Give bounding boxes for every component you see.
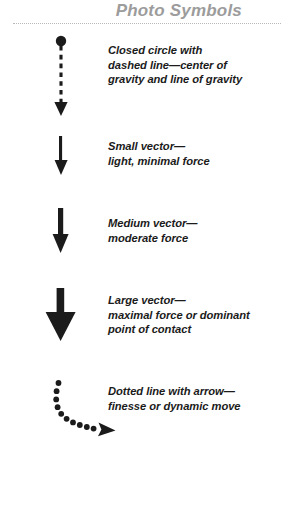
caption-line: Closed circle with [108,43,280,58]
legend-item-small-vector: Small vector— light, minimal force [0,132,286,188]
symbol-cell [0,376,108,442]
legend-caption: Dotted line with arrow— finesse or dynam… [108,384,280,413]
legend-item-dotted-arrow: Dotted line with arrow— finesse or dynam… [0,376,286,442]
legend-item-medium-vector: Medium vector— moderate force [0,206,286,266]
legend-caption: Medium vector— moderate force [108,216,280,245]
medium-down-arrow-icon [46,208,76,260]
legend-item-large-vector: Large vector— maximal force or dominant … [0,286,286,356]
closed-circle-dashed-arrow-icon [46,34,76,122]
legend-item-gravity: Closed circle with dashed line—center of… [0,34,286,122]
symbol-cell [0,286,108,356]
caption-line: gravity and line of gravity [108,72,280,87]
caption-line: point of contact [108,322,280,337]
page-header: Photo Symbols [0,0,286,30]
symbol-cell [0,34,108,122]
caption-line: Large vector— [108,293,280,308]
legend-caption: Small vector— light, minimal force [108,139,280,168]
caption-line: light, minimal force [108,154,280,169]
legend-caption: Closed circle with dashed line—center of… [108,43,280,87]
caption-line: moderate force [108,231,280,246]
caption-line: Small vector— [108,139,280,154]
small-down-arrow-icon [48,136,74,180]
symbol-cell [0,132,108,188]
caption-line: finesse or dynamic move [108,399,280,414]
caption-line: dashed line—center of [108,58,280,73]
symbol-cell [0,206,108,266]
header-divider [13,23,281,25]
page-title: Photo Symbols [116,1,242,21]
caption-line: maximal force or dominant [108,308,280,323]
large-down-arrow-icon [41,288,81,348]
caption-line: Medium vector— [108,216,280,231]
caption-line: Dotted line with arrow— [108,384,280,399]
legend-caption: Large vector— maximal force or dominant … [108,293,280,337]
